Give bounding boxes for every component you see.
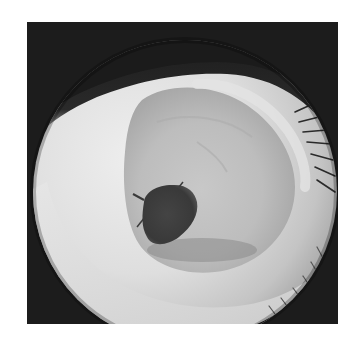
eye-scene: [27, 22, 338, 324]
eye-photograph: [27, 22, 338, 324]
